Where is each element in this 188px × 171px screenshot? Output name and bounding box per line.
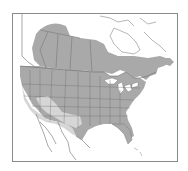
range-map — [0, 0, 188, 171]
